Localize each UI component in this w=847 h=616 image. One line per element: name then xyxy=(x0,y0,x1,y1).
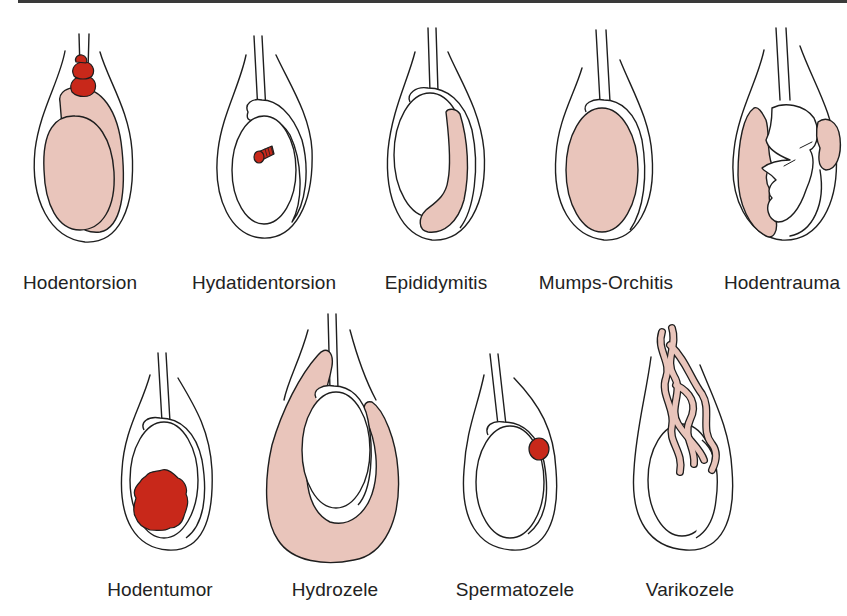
label-hydrozele: Hydrozele xyxy=(292,579,378,601)
figure-varikozele xyxy=(633,328,732,550)
figure-hodentorsion xyxy=(34,34,132,242)
cyst-icon xyxy=(529,438,549,460)
tumor-mass-icon xyxy=(134,470,188,531)
label-hodentorsion: Hodentorsion xyxy=(23,272,137,294)
figure-epididymitis xyxy=(387,28,484,240)
diagram-canvas xyxy=(0,0,847,616)
label-varikozele: Varikozele xyxy=(646,579,734,601)
figure-hodentumor xyxy=(121,353,212,550)
label-spermatozele: Spermatozele xyxy=(456,579,574,601)
label-hydatidentorsion: Hydatidentorsion xyxy=(192,272,336,294)
figure-hydatidentorsion xyxy=(217,36,312,238)
figure-hydrozele xyxy=(267,314,399,563)
hematoma-right xyxy=(817,119,841,170)
label-hodentrauma: Hodentrauma xyxy=(724,272,840,294)
figure-spermatozele xyxy=(463,354,556,550)
label-mumps-orchitis: Mumps-Orchitis xyxy=(539,272,673,294)
figure-mumps-orchitis xyxy=(555,30,652,240)
figure-hodentrauma xyxy=(733,28,840,240)
label-hodentumor: Hodentumor xyxy=(107,579,213,601)
label-epididymitis: Epididymitis xyxy=(385,272,488,294)
